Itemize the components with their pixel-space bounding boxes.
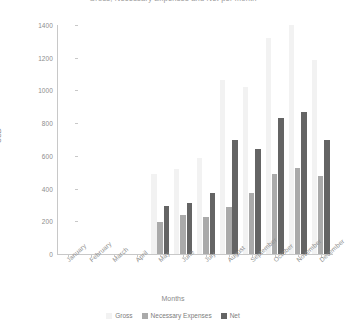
bar <box>249 193 254 254</box>
bar <box>301 112 306 254</box>
bar-group <box>286 25 309 254</box>
bar <box>151 174 156 254</box>
bar-group <box>103 25 126 254</box>
bar <box>197 158 202 255</box>
bar-group <box>149 25 172 254</box>
bar-group <box>57 25 80 254</box>
legend-label: Necessary Expenses <box>151 312 212 319</box>
bar <box>243 87 248 254</box>
y-axis-tick-label: 0 <box>25 251 53 258</box>
bar <box>255 149 260 254</box>
bar-group <box>80 25 103 254</box>
bar-group <box>217 25 240 254</box>
legend-item[interactable]: Necessary Expenses <box>142 312 212 319</box>
bar <box>164 206 169 254</box>
bar <box>289 25 294 254</box>
bar <box>312 60 317 254</box>
plot-area <box>57 25 332 254</box>
y-axis-tick-label: 1200 <box>25 54 53 61</box>
legend-label: Net <box>230 312 240 319</box>
bar <box>187 203 192 254</box>
legend-label: Gross <box>115 312 132 319</box>
legend-item[interactable]: Gross <box>106 312 132 319</box>
bar <box>220 80 225 254</box>
bar <box>232 140 237 255</box>
chart-legend: GrossNecessary ExpensesNet <box>0 312 346 319</box>
x-axis-title: Months <box>0 295 346 302</box>
bar-group <box>263 25 286 254</box>
y-axis-tick-label: 1000 <box>25 87 53 94</box>
bar <box>295 168 300 254</box>
bar <box>203 217 208 254</box>
bar <box>174 169 179 254</box>
y-axis-tick-labels: 0200400600800100012001400 <box>22 0 53 335</box>
y-axis-tick-label: 400 <box>25 185 53 192</box>
legend-swatch-icon <box>221 313 227 319</box>
legend-swatch-icon <box>106 313 112 319</box>
bar <box>226 207 231 254</box>
legend-swatch-icon <box>142 313 148 319</box>
bar-group <box>172 25 195 254</box>
bar-group <box>240 25 263 254</box>
bar-group <box>309 25 332 254</box>
y-axis-title: USD <box>0 128 2 143</box>
y-axis-tick-label: 200 <box>25 218 53 225</box>
y-axis-tick-label: 600 <box>25 152 53 159</box>
bar <box>266 38 271 254</box>
bar-chart-figure: Gross, Necessary Expenses and Net per mo… <box>0 0 346 335</box>
y-axis-tick-label: 1400 <box>25 22 53 29</box>
bar <box>278 118 283 254</box>
bar <box>324 140 329 254</box>
legend-item[interactable]: Net <box>221 312 240 319</box>
bar <box>180 215 185 254</box>
bar <box>157 222 162 254</box>
bar-group <box>195 25 218 254</box>
bar-group <box>126 25 149 254</box>
bar <box>210 193 215 254</box>
y-axis-tick-label: 800 <box>25 120 53 127</box>
